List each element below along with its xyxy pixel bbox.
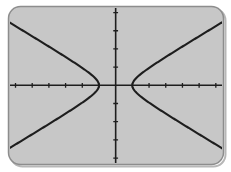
- hyperbola-plot: [0, 0, 231, 172]
- graphing-calculator-figure: [0, 0, 231, 172]
